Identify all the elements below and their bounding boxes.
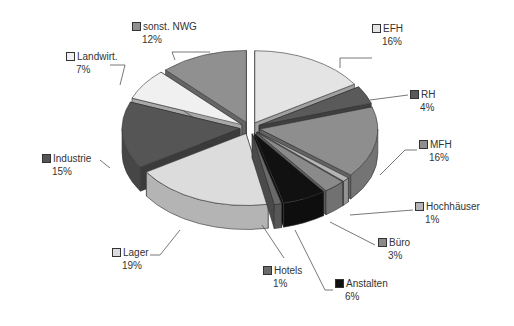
legend-swatch-icon bbox=[410, 90, 419, 99]
data-label: Büro3% bbox=[378, 236, 410, 262]
leader-line bbox=[100, 160, 110, 168]
category-name: Hochhäuser bbox=[426, 201, 480, 212]
leader-line bbox=[150, 230, 180, 255]
leader-line bbox=[340, 58, 372, 68]
data-label: Landwirt.7% bbox=[66, 50, 118, 76]
category-name: Lager bbox=[123, 247, 149, 258]
percent-value: 16% bbox=[372, 35, 403, 48]
leader-line bbox=[262, 225, 284, 258]
percent-value: 16% bbox=[419, 151, 452, 164]
legend-swatch-icon bbox=[419, 140, 428, 149]
legend-swatch-icon bbox=[42, 154, 51, 163]
category-name: Landwirt. bbox=[77, 51, 118, 62]
legend-swatch-icon bbox=[112, 248, 121, 257]
percent-value: 3% bbox=[378, 249, 410, 262]
category-name: RH bbox=[421, 89, 435, 100]
legend-swatch-icon bbox=[378, 238, 387, 247]
percent-value: 12% bbox=[132, 33, 197, 46]
data-label: Industrie15% bbox=[42, 152, 91, 178]
data-label: sonst. NWG12% bbox=[132, 20, 197, 46]
data-label: Hochhäuser1% bbox=[415, 200, 480, 226]
category-name: EFH bbox=[383, 23, 403, 34]
legend-swatch-icon bbox=[415, 202, 424, 211]
category-name: sonst. NWG bbox=[143, 21, 197, 32]
legend-swatch-icon bbox=[263, 266, 272, 275]
leader-line bbox=[350, 210, 413, 215]
percent-value: 15% bbox=[42, 165, 91, 178]
data-label: RH4% bbox=[410, 88, 435, 114]
percent-value: 19% bbox=[112, 259, 149, 272]
percent-value: 1% bbox=[415, 213, 480, 226]
leader-line bbox=[330, 222, 375, 245]
percent-value: 4% bbox=[410, 101, 435, 114]
leader-line bbox=[380, 150, 417, 175]
leader-line bbox=[370, 95, 408, 100]
data-label: EFH16% bbox=[372, 22, 403, 48]
data-label: Anstalten6% bbox=[335, 277, 388, 303]
percent-value: 7% bbox=[66, 63, 118, 76]
category-name: Anstalten bbox=[346, 278, 388, 289]
category-name: Büro bbox=[389, 237, 410, 248]
category-name: MFH bbox=[430, 139, 452, 150]
legend-swatch-icon bbox=[132, 22, 141, 31]
legend-swatch-icon bbox=[66, 52, 75, 61]
category-name: Hotels bbox=[274, 265, 302, 276]
legend-swatch-icon bbox=[335, 279, 344, 288]
data-label: Hotels1% bbox=[263, 264, 302, 290]
percent-value: 6% bbox=[335, 290, 388, 303]
category-name: Industrie bbox=[53, 153, 91, 164]
data-label: Lager19% bbox=[112, 246, 149, 272]
percent-value: 1% bbox=[263, 277, 302, 290]
data-label: MFH16% bbox=[419, 138, 452, 164]
legend-swatch-icon bbox=[372, 24, 381, 33]
